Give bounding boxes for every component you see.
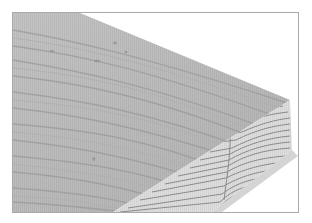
wood-board-illustration [0, 0, 312, 223]
